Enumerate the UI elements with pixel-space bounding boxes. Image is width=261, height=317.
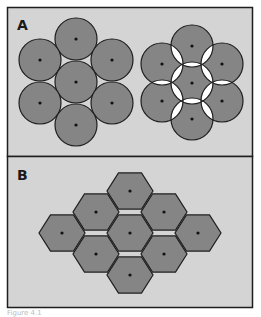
center-dot xyxy=(74,80,77,83)
center-dot xyxy=(220,99,223,102)
figure-caption: Figure 4.1 xyxy=(7,309,42,317)
center-dot xyxy=(128,231,131,234)
center-dot xyxy=(94,252,97,255)
panel-a: A xyxy=(8,8,253,157)
center-dot xyxy=(38,58,41,61)
center-dot xyxy=(38,101,41,104)
panel-b: B xyxy=(8,157,253,308)
center-dot xyxy=(162,210,165,213)
center-dot xyxy=(160,99,163,102)
center-dot xyxy=(74,37,77,40)
center-dot xyxy=(110,58,113,61)
center-dot xyxy=(190,44,193,47)
center-dot xyxy=(190,81,193,84)
center-dot xyxy=(74,123,77,126)
center-dot xyxy=(190,117,193,120)
center-dot xyxy=(220,62,223,65)
center-dot xyxy=(162,252,165,255)
center-dot xyxy=(128,189,131,192)
center-dot xyxy=(160,62,163,65)
panel-b-label: B xyxy=(17,167,28,183)
center-dot xyxy=(60,231,63,234)
center-dot xyxy=(128,273,131,276)
center-dot xyxy=(110,101,113,104)
center-dot xyxy=(196,231,199,234)
panel-a-label: A xyxy=(17,17,28,33)
center-dot xyxy=(94,210,97,213)
